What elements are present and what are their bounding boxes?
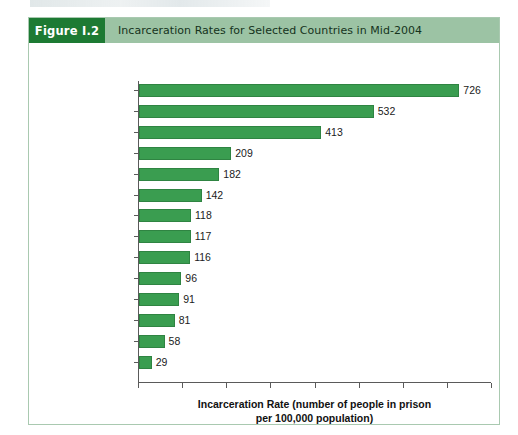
bar [139,105,374,118]
bar-value-label: 58 [169,335,181,348]
bar [139,272,181,285]
y-axis-tick [134,132,138,133]
figure-title: Incarceration Rates for Selected Countri… [105,18,422,43]
bar-value-label: 81 [179,314,191,327]
bar-value-label: 118 [195,209,212,222]
x-axis-tick [491,383,492,388]
bar-value-label: 726 [463,84,481,97]
plot-area: United States726Russia532South Africa413… [29,43,501,383]
bar-value-label: 91 [183,293,195,306]
y-axis-tick [134,341,138,342]
bar [139,314,175,327]
bar-value-label: 142 [206,189,224,202]
bar [139,251,190,264]
bar-value-label: 96 [185,272,197,285]
x-axis-tick [403,383,404,388]
y-axis-tick [134,362,138,363]
x-axis-tick [447,383,448,388]
bar-value-label: 209 [235,147,253,160]
x-axis-title-line1: Incarceration Rate (number of people in … [138,398,491,412]
bar [139,147,231,160]
bar [139,293,179,306]
bar [139,356,152,369]
y-axis-tick [134,90,138,91]
bar [139,168,219,181]
bar-value-label: 182 [223,168,241,181]
y-axis-tick [134,111,138,112]
x-axis-tick [315,383,316,388]
bar-value-label: 532 [378,105,396,118]
y-axis-tick [134,257,138,258]
y-axis-tick [134,215,138,216]
bar [139,84,459,97]
x-axis-tick [138,383,139,388]
x-axis-title: Incarceration Rate (number of people in … [138,398,491,425]
figure-header: Figure I.2 Incarceration Rates for Selec… [29,18,499,43]
bar [139,230,191,243]
y-axis-tick [134,278,138,279]
x-axis-tick [359,383,360,388]
bar [139,209,191,222]
x-axis-tick [182,383,183,388]
figure-number-label: Figure I.2 [35,24,99,38]
bar-value-label: 29 [156,356,168,369]
y-axis-tick [134,299,138,300]
y-axis-tick [134,236,138,237]
scan-top-artifact [30,0,270,7]
bar [139,335,165,348]
bar-chart: United States726Russia532South Africa413… [29,43,501,425]
y-axis-tick [134,195,138,196]
x-axis-tick [226,383,227,388]
x-axis-tick [270,383,271,388]
bar-value-label: 116 [194,251,211,264]
y-axis-tick [134,174,138,175]
bar [139,126,321,139]
x-axis-title-line2: per 100,000 population) [138,412,491,426]
y-axis-tick [134,153,138,154]
figure-number-block: Figure I.2 [29,18,105,43]
figure-panel: Figure I.2 Incarceration Rates for Selec… [28,17,500,425]
bar-value-label: 413 [325,126,343,139]
bar [139,189,202,202]
y-axis-tick [134,320,138,321]
bar-value-label: 117 [195,230,212,243]
